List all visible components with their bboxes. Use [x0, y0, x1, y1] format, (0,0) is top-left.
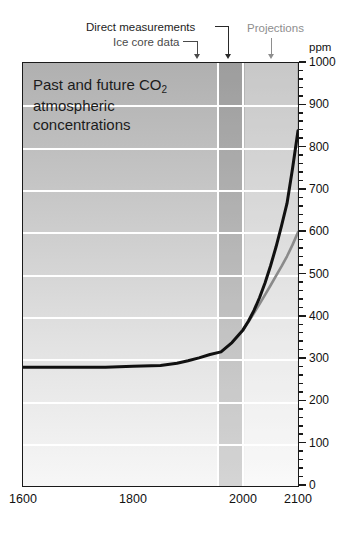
y-tick-840	[299, 129, 303, 131]
y-tick-label-400: 400	[309, 309, 329, 323]
x-tick-label-2100: 2100	[284, 492, 312, 506]
y-tick-80	[299, 450, 303, 452]
y-tick-900	[299, 104, 306, 106]
y-tick-180	[299, 408, 303, 410]
y-tick-20	[299, 476, 303, 478]
annotation-direct-measurements: Direct measurements	[86, 21, 195, 34]
y-tick-1000	[299, 61, 306, 63]
y-tick-label-100: 100	[309, 436, 329, 450]
y-tick-620	[299, 222, 303, 224]
y-axis: ppm 01002003004005006007008009001000	[299, 55, 349, 495]
chart-title-line2: atmospheric	[33, 97, 115, 114]
y-tick-960	[299, 78, 303, 80]
chart-title-line1: Past and future CO	[33, 76, 161, 93]
y-tick-520	[299, 264, 303, 266]
y-tick-460	[299, 290, 303, 292]
x-tick-label-1800: 1800	[119, 492, 147, 506]
y-tick-860	[299, 120, 303, 122]
y-tick-360	[299, 332, 303, 334]
y-tick-320	[299, 349, 303, 351]
series-high-projection	[23, 131, 298, 367]
y-tick-label-200: 200	[309, 393, 329, 407]
y-tick-720	[299, 180, 303, 182]
y-tick-780	[299, 154, 303, 156]
y-tick-260	[299, 374, 303, 376]
y-tick-640	[299, 214, 303, 216]
y-tick-0	[299, 484, 306, 486]
y-tick-540	[299, 256, 303, 258]
y-tick-300	[299, 357, 306, 359]
y-tick-40	[299, 467, 303, 469]
y-tick-140	[299, 425, 303, 427]
y-tick-label-800: 800	[309, 140, 329, 154]
y-tick-980	[299, 70, 303, 72]
y-tick-940	[299, 87, 303, 89]
plot-area: Past and future CO2 atmospheric concentr…	[22, 62, 299, 487]
y-axis-unit-label: ppm	[309, 41, 331, 53]
leader-projections	[268, 38, 276, 62]
y-tick-560	[299, 247, 303, 249]
chart-title-line3: concentrations	[33, 116, 131, 133]
y-tick-480	[299, 281, 303, 283]
y-tick-label-500: 500	[309, 267, 329, 281]
y-tick-580	[299, 239, 303, 241]
y-tick-400	[299, 315, 306, 317]
y-tick-label-900: 900	[309, 97, 329, 111]
y-tick-660	[299, 205, 303, 207]
annotation-ice-core-data: Ice core data	[113, 36, 179, 49]
y-tick-740	[299, 171, 303, 173]
y-tick-label-0: 0	[309, 478, 316, 492]
co2-concentration-chart: Direct measurements Ice core data Projec…	[0, 0, 349, 536]
y-tick-220	[299, 391, 303, 393]
y-tick-800	[299, 146, 306, 148]
y-tick-100	[299, 442, 306, 444]
y-tick-160	[299, 417, 303, 419]
chart-title: Past and future CO2 atmospheric concentr…	[33, 75, 213, 134]
leader-direct-measurements	[215, 26, 235, 62]
annotation-projections: Projections	[247, 22, 304, 35]
y-tick-440	[299, 298, 303, 300]
leader-ice-core-data	[183, 41, 205, 63]
y-tick-60	[299, 459, 303, 461]
y-tick-820	[299, 137, 303, 139]
y-tick-420	[299, 307, 303, 309]
chart-title-subscript: 2	[161, 84, 167, 95]
y-tick-920	[299, 95, 303, 97]
y-tick-600	[299, 230, 306, 232]
y-tick-380	[299, 324, 303, 326]
x-tick-label-1600: 1600	[9, 492, 37, 506]
y-tick-700	[299, 188, 306, 190]
y-tick-label-600: 600	[309, 224, 329, 238]
y-tick-label-1000: 1000	[309, 55, 336, 69]
y-tick-340	[299, 340, 303, 342]
y-tick-880	[299, 112, 303, 114]
y-tick-200	[299, 400, 306, 402]
y-tick-120	[299, 433, 303, 435]
y-tick-label-700: 700	[309, 182, 329, 196]
y-tick-760	[299, 163, 303, 165]
x-tick-label-2000: 2000	[229, 492, 257, 506]
y-tick-240	[299, 383, 303, 385]
y-tick-680	[299, 197, 303, 199]
y-tick-label-300: 300	[309, 351, 329, 365]
y-tick-500	[299, 273, 306, 275]
y-tick-280	[299, 366, 303, 368]
